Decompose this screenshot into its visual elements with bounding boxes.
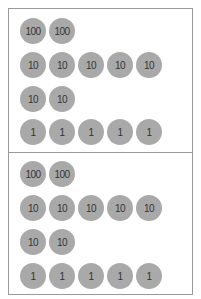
- place-value-disc: 10: [20, 52, 46, 78]
- row-ones: 1 1 1 1 1: [20, 119, 162, 146]
- place-value-disc: 10: [107, 195, 133, 221]
- place-value-disc: 100: [49, 161, 75, 187]
- place-value-disc: 100: [49, 18, 75, 44]
- place-value-disc: 1: [78, 263, 104, 289]
- place-value-disc: 10: [107, 52, 133, 78]
- place-value-disc: 10: [49, 52, 75, 78]
- row-tens-extra: 10 10: [20, 229, 75, 256]
- place-value-disc: 1: [20, 263, 46, 289]
- place-value-disc: 1: [136, 119, 162, 145]
- place-value-disc: 10: [78, 52, 104, 78]
- row-tens-extra: 10 10: [20, 86, 75, 113]
- place-value-disc: 1: [78, 119, 104, 145]
- row-ones: 1 1 1 1 1: [20, 263, 162, 290]
- place-value-disc: 10: [136, 52, 162, 78]
- place-value-disc: 10: [136, 195, 162, 221]
- place-value-disc: 100: [20, 18, 46, 44]
- row-tens: 10 10 10 10 10: [20, 195, 162, 222]
- place-value-disc: 10: [78, 195, 104, 221]
- place-value-disc: 10: [20, 229, 46, 255]
- place-value-disc: 10: [49, 229, 75, 255]
- row-hundreds: 100 100: [20, 18, 75, 45]
- row-tens: 10 10 10 10 10: [20, 52, 162, 79]
- place-value-disc: 10: [20, 195, 46, 221]
- place-value-disc: 1: [136, 263, 162, 289]
- place-value-disc: 1: [49, 119, 75, 145]
- place-value-disc: 1: [107, 119, 133, 145]
- panel-divider: [8, 152, 193, 153]
- place-value-disc: 10: [20, 86, 46, 112]
- row-hundreds: 100 100: [20, 161, 75, 188]
- place-value-disc: 1: [107, 263, 133, 289]
- place-value-disc: 10: [49, 86, 75, 112]
- place-value-disc: 1: [49, 263, 75, 289]
- place-value-disc: 100: [20, 161, 46, 187]
- place-value-disc: 1: [20, 119, 46, 145]
- place-value-disc: 10: [49, 195, 75, 221]
